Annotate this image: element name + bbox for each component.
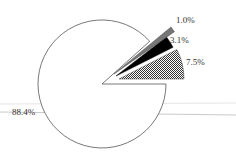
pie-slice-88-4 — [38, 20, 166, 148]
label-1-0: 1.0% — [176, 15, 195, 25]
label-3-1: 3.1% — [170, 35, 189, 45]
label-88-4: 88.4% — [12, 107, 36, 117]
pie-chart: 1.0% 3.1% 7.5% 88.4% — [0, 0, 236, 160]
label-7-5: 7.5% — [186, 57, 205, 67]
